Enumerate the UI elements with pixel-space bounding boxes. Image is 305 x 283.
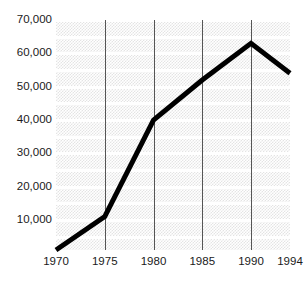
gridline-horizontal (56, 36, 290, 39)
gridline-horizontal (56, 236, 290, 239)
gridline-vertical-1975 (105, 20, 106, 250)
x-axis-tick-label: 1980 (141, 256, 167, 268)
y-axis-tick-label: 10,000 (0, 214, 52, 226)
y-axis-tick-label: 30,000 (0, 148, 52, 160)
x-axis-tick-label: 1994 (277, 256, 303, 268)
gridline-horizontal (56, 186, 290, 189)
gridline-horizontal (56, 119, 290, 122)
plot-area (56, 20, 290, 250)
gridline-vertical-1980 (154, 20, 155, 250)
y-axis-tick-labels: 70,00060,00050,00040,00030,00020,00010,0… (0, 20, 52, 250)
gridline-horizontal (56, 136, 290, 139)
gridline-horizontal (56, 152, 290, 155)
gridline-horizontal (56, 86, 290, 89)
y-axis-tick-label: 70,000 (0, 14, 52, 26)
x-axis-tick-label: 1975 (92, 256, 118, 268)
line-chart-figure: 70,00060,00050,00040,00030,00020,00010,0… (0, 0, 305, 283)
x-axis-tick-label: 1985 (189, 256, 215, 268)
gridline-horizontal (56, 169, 290, 172)
x-axis-tick-label: 1970 (43, 256, 69, 268)
gridline-vertical-1985 (202, 20, 203, 250)
gridline-horizontal (56, 69, 290, 72)
gridline-horizontal (56, 202, 290, 205)
gridline-horizontal (56, 102, 290, 105)
gridline-horizontal (56, 52, 290, 55)
x-axis-tick-label: 1990 (238, 256, 264, 268)
y-axis-tick-label: 20,000 (0, 181, 52, 193)
gridline-horizontal (56, 219, 290, 222)
x-axis-tick-labels: 197019751980198519901994 (0, 256, 305, 276)
y-axis-tick-label: 60,000 (0, 48, 52, 60)
gridline-vertical-1990 (251, 20, 252, 250)
y-axis-tick-label: 40,000 (0, 114, 52, 126)
y-axis-tick-label: 50,000 (0, 81, 52, 93)
gridline-horizontal (56, 19, 290, 22)
